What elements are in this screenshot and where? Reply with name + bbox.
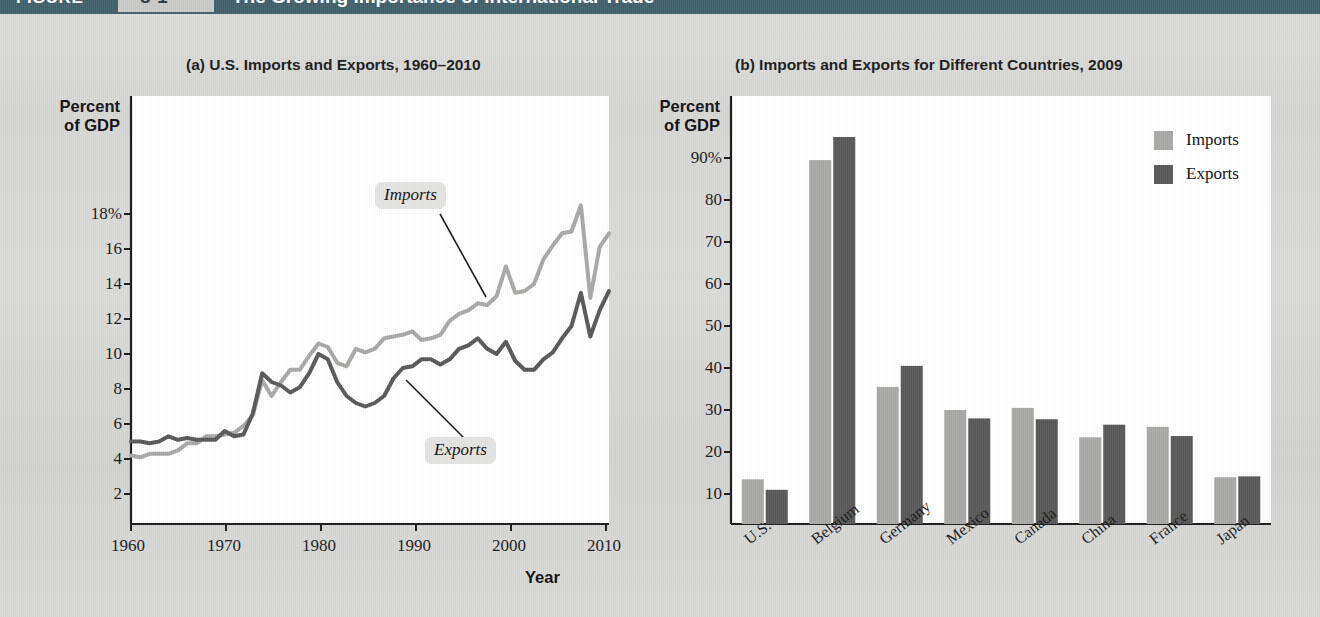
bar-belgium-exports xyxy=(833,137,855,524)
bar-mexico-imports xyxy=(944,410,966,524)
bar-germany-imports xyxy=(877,387,899,524)
bar-us-exports xyxy=(766,490,788,524)
bar-belgium-imports xyxy=(809,160,831,524)
panel-b-svg xyxy=(0,0,1320,545)
bar-china-imports xyxy=(1079,437,1101,524)
legend-label-exports: Exports xyxy=(1186,164,1239,184)
bar-canada-imports xyxy=(1012,408,1034,524)
bar-china-exports xyxy=(1103,425,1125,524)
bar-france-imports xyxy=(1147,427,1169,524)
legend-swatch-exports xyxy=(1154,165,1173,184)
panel-a-x-axis-label: Year xyxy=(525,568,560,587)
panel-b-bars xyxy=(742,137,1261,524)
figure-page: FIGURE 8-1 The Growing Importance of Int… xyxy=(0,0,1320,617)
legend-label-imports: Imports xyxy=(1186,130,1239,150)
legend-swatch-imports xyxy=(1154,131,1173,150)
